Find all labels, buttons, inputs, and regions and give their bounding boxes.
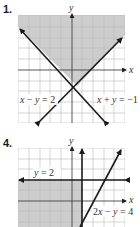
graph-1-x-label: x <box>128 64 134 75</box>
graph-1-y-label: y <box>68 2 74 13</box>
problem-number-4: 4. <box>3 137 12 149</box>
graph-4-x-label: x <box>128 194 134 205</box>
graphs-canvas: x y x − y = 2 x + y = −1 <box>0 0 140 227</box>
graph-4-y-label: y <box>68 135 74 146</box>
graph-1: x y x − y = 2 x + y = −1 <box>18 2 138 123</box>
graph-1-label-line-b: x + y = −1 <box>96 94 138 105</box>
graph-4-label-y-eq-2: y = 2 <box>33 167 54 178</box>
graph-1-label-line-a: x − y = 2 <box>19 94 55 105</box>
graph-4: x y y = 2 2x − y = 4 <box>18 135 138 227</box>
graph-4-label-2x-minus-y-eq-4: 2x − y = 4 <box>93 206 133 217</box>
